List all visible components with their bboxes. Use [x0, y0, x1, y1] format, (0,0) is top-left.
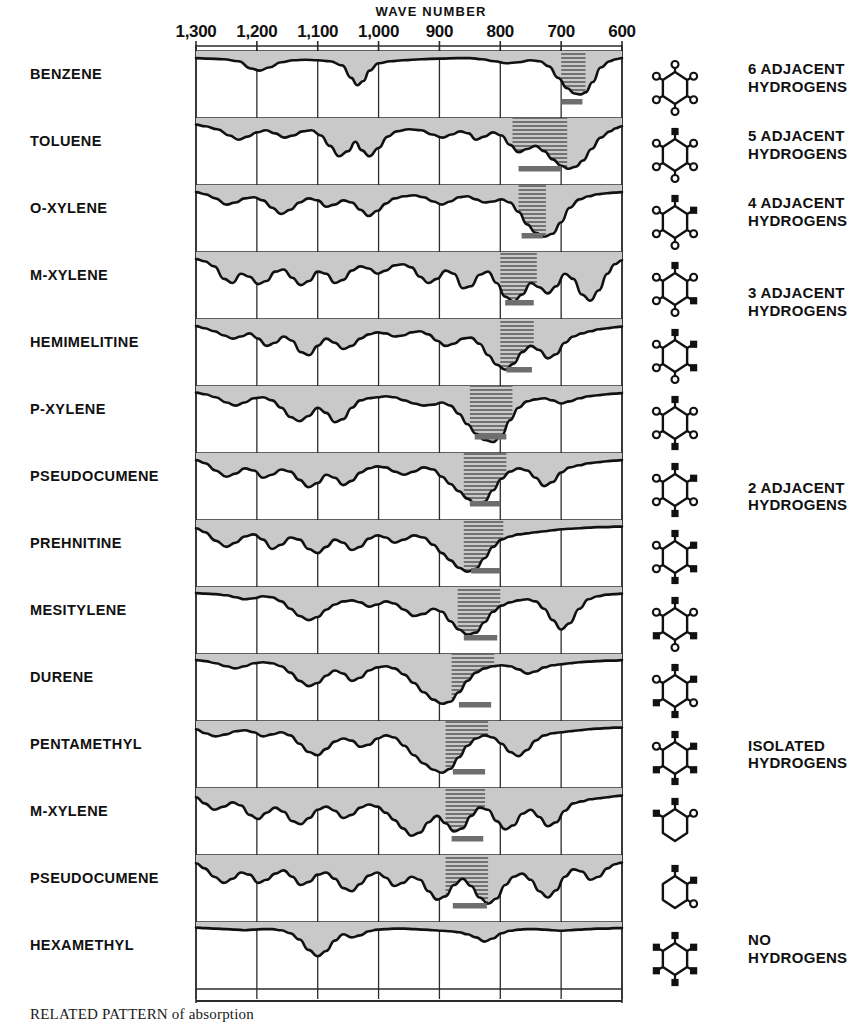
spectrum-o-xylene-2 [196, 185, 622, 262]
spectrum-pseudocumene-12 [196, 855, 622, 932]
diagnostic-band [512, 118, 567, 195]
diagnostic-band [446, 855, 489, 932]
diagnostic-band [561, 51, 585, 128]
spectrum-fill [196, 453, 622, 505]
band-marker-bar [522, 233, 543, 239]
spectrum-p-xylene-5 [196, 386, 622, 463]
diagnostic-band [500, 252, 537, 329]
spectrum-mesitylene-8 [196, 587, 622, 664]
spectrum-fill [196, 520, 622, 572]
spectrum-toluene-1 [196, 118, 622, 195]
band-marker-bar [471, 568, 500, 574]
diagnostic-band [458, 587, 501, 664]
spectrum-pseudocumene-6 [196, 453, 622, 530]
spectrum-fill [196, 788, 622, 836]
spectrum-fill [196, 185, 622, 237]
band-marker-bar [505, 300, 534, 306]
spectrum-hexamethyl-13 [196, 922, 622, 956]
spectrum-trace [196, 928, 622, 957]
spectrum-benzene-0 [196, 51, 622, 128]
spectrum-fill [196, 721, 622, 773]
spectrum-prehnitine-7 [196, 520, 622, 597]
spectrum-fill [196, 386, 622, 442]
band-marker-bar [464, 635, 497, 641]
spectrum-pentamethyl-10 [196, 721, 622, 798]
band-marker-bar [561, 99, 582, 105]
spectrum-durene-9 [196, 654, 622, 731]
spectrum-fill [196, 51, 622, 95]
spectrum-fill [196, 922, 622, 956]
band-marker-bar [452, 836, 484, 842]
figure-caption: RELATED PATTERN of absorption [30, 1006, 254, 1023]
spectrum-fill [196, 252, 622, 302]
band-marker-bar [470, 501, 500, 507]
diagnostic-band [519, 185, 546, 262]
spectrum-m-xylene-3 [196, 252, 622, 329]
ir-spectra-figure: WAVE NUMBER 1,3001,2001,1001,00090080070… [0, 0, 862, 1029]
spectra-plot [0, 0, 862, 1029]
spectrum-m-xylene-11 [196, 788, 622, 865]
diagnostic-band [446, 721, 489, 798]
band-marker-bar [453, 769, 485, 775]
spectrum-fill [196, 319, 622, 370]
band-marker-bar [459, 702, 491, 708]
band-marker-bar [519, 166, 562, 172]
band-marker-bar [453, 903, 487, 909]
band-marker-bar [475, 434, 507, 440]
spectrum-hemimelitine-4 [196, 319, 622, 396]
band-marker-bar [506, 367, 532, 373]
